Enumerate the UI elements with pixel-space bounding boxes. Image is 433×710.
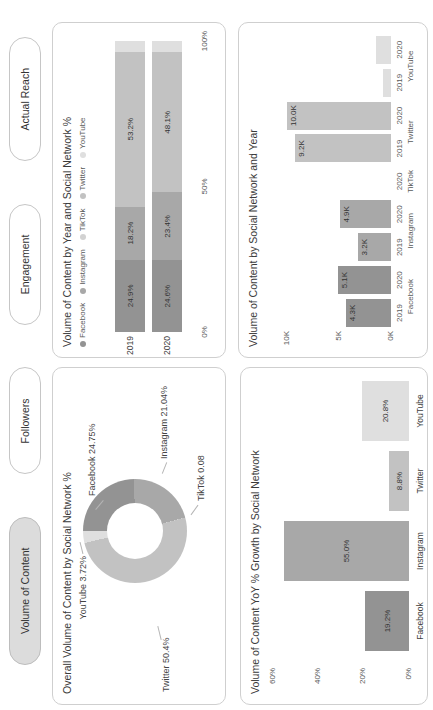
bar-value-label: 4.3K (348, 305, 357, 321)
yoy-bar-instagram: 55.0% (284, 521, 409, 581)
group-year-label: 2019 (396, 232, 404, 262)
legend-label: Instagram (78, 249, 87, 285)
grouped-bar-facebook-2019: 4.3K (346, 299, 391, 327)
x-tick-100: 100% (201, 28, 209, 54)
bar-value-label: 20.8% (381, 400, 390, 423)
stacked-bar-2019: 24.9%18.2%53.2% (115, 41, 145, 332)
stacked-bar-2020: 24.6%23.4%48.1% (152, 41, 182, 332)
legend-item-instagram: Instagram (78, 249, 87, 294)
bar-value-label: 9.2K (297, 140, 306, 156)
y-tick-20: 20% (359, 668, 367, 696)
legend-dot-youtube (80, 152, 86, 158)
y-tick-0: 0% (405, 668, 413, 696)
grouped-bar-instagram-2019: 3.2K (358, 233, 391, 261)
group-year-label: 2019 (396, 298, 404, 328)
yoy-category-instagram: Instagram (416, 521, 425, 581)
stacked-segment-facebook: 24.6% (152, 260, 182, 332)
stacked-segment-twitter: 48.1% (152, 52, 182, 192)
tab-engagement[interactable]: Engagement (9, 204, 41, 326)
group-network-label-youtube: YouTube (407, 36, 415, 96)
panel-title: Volume of Content by Social Network and … (247, 129, 259, 347)
donut-label-tiktok: TikTok 0.08 (196, 455, 206, 501)
group-network-label-twitter: Twitter (407, 102, 415, 162)
legend-label: TikTok (78, 208, 87, 231)
donut-hole (107, 503, 163, 559)
stacked-segment-youtube (152, 41, 182, 52)
yoy-category-twitter: Twitter (416, 451, 425, 511)
group-network-label-facebook: Facebook (407, 267, 415, 327)
segment-value-label: 18.2% (126, 222, 135, 245)
legend-item-tiktok: TikTok (78, 208, 87, 240)
panel-yoy-growth: Volume of Content YoY % Growth by Social… (240, 367, 428, 705)
yoy-bar-facebook: 19.2% (365, 591, 409, 651)
tab-actual-reach[interactable]: Actual Reach (9, 37, 41, 161)
grouped-bar-twitter-2019: 9.2K (295, 135, 391, 163)
y-tick-0k: 0K (387, 331, 395, 355)
dashboard-rotated-stage: Volume of Content Followers Engagement A… (0, 0, 433, 710)
leader-line (191, 505, 199, 515)
leader-line (80, 542, 84, 554)
segment-value-label: 24.6% (163, 285, 172, 308)
y-tick-40: 40% (314, 668, 322, 696)
group-year-label: 2020 (396, 35, 404, 65)
group-year-label: 2020 (396, 101, 404, 131)
group-year-label: 2020 (396, 265, 404, 295)
donut-label-instagram: Instagram 21.04% (159, 386, 169, 459)
x-tick-50: 50% (201, 176, 209, 197)
panel-title: Volume of Content by Year and Social Net… (61, 117, 73, 347)
group-year-label: 2019 (396, 134, 404, 164)
donut-label-youtube: YouTube 3.72% (78, 556, 88, 644)
legend-dot-instagram (80, 288, 86, 294)
legend-label: Facebook (78, 303, 87, 338)
bar-value-label: 55.0% (342, 540, 351, 563)
tab-bar: Volume of Content Followers Engagement A… (8, 37, 42, 665)
legend-dot-twitter (80, 193, 86, 199)
bar-value-label: 4.9K (342, 206, 351, 222)
yoy-category-facebook: Facebook (416, 591, 425, 651)
group-year-label: 2020 (396, 199, 404, 229)
stacked-segment-instagram: 23.4% (152, 192, 182, 260)
y-tick-5k: 5K (335, 331, 343, 355)
legend-item-youtube: YouTube (78, 117, 87, 157)
panel-overall-volume-donut: Overall Volume of Content by Social Netw… (52, 367, 226, 705)
leader-line (157, 626, 161, 640)
bar-value-label: 5.1K (340, 272, 349, 288)
stacked-segment-twitter: 53.2% (115, 52, 145, 207)
group-year-label: 2019 (396, 68, 404, 98)
y-tick-60: 60% (269, 668, 277, 696)
yoy-category-youtube: YouTube (416, 381, 425, 441)
group-year-label: 2020 (396, 166, 404, 196)
legend-dot-tiktok (80, 234, 86, 240)
bar-value-label: 10.0K (289, 105, 298, 126)
stacked-segment-instagram: 18.2% (115, 207, 145, 260)
stacked-segment-facebook: 24.9% (115, 260, 145, 332)
panel-title: Volume of Content YoY % Growth by Social… (249, 450, 261, 694)
segment-value-label: 48.1% (163, 111, 172, 134)
yoy-bar-twitter: 8.8% (389, 451, 409, 511)
segment-value-label: 24.9% (126, 284, 135, 307)
legend-item-twitter: Twitter (78, 167, 87, 200)
leader-line (162, 462, 167, 474)
grouped-bar-facebook-2020: 5.1K (338, 266, 391, 294)
grouped-bar-twitter-2020: 10.0K (287, 102, 391, 130)
panel-volume-by-year-stacked: Volume of Content by Year and Social Net… (52, 22, 226, 358)
stacked-legend: FacebookInstagramTikTokTwitterYouTube (78, 117, 87, 347)
bar-value-label: 8.8% (395, 472, 404, 490)
panel-title: Overall Volume of Content by Social Netw… (61, 472, 73, 694)
stacked-category-2020: 2020 (163, 336, 172, 357)
stacked-segment-youtube (115, 41, 145, 52)
stacked-category-2019: 2019 (126, 336, 135, 357)
grouped-bar-youtube-2019 (383, 69, 391, 97)
yoy-bar-youtube: 20.8% (362, 381, 409, 441)
grouped-bar-instagram-2020: 4.9K (340, 200, 391, 228)
panel-volume-by-network-year: Volume of Content by Social Network and … (238, 22, 428, 358)
grouped-bar-youtube-2020 (376, 36, 391, 64)
bar-value-label: 3.2K (360, 239, 369, 255)
donut-label-facebook: Facebook 24.75% (87, 423, 97, 496)
tab-followers[interactable]: Followers (9, 367, 41, 474)
x-tick-0: 0% (201, 322, 209, 342)
segment-value-label: 53.2% (126, 118, 135, 141)
tab-volume-of-content[interactable]: Volume of Content (9, 517, 41, 665)
bar-value-label: 19.2% (383, 610, 392, 633)
legend-label: YouTube (78, 117, 87, 148)
